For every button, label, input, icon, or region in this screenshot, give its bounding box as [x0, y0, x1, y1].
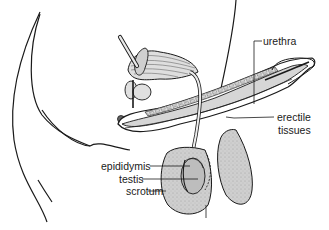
label-epididymis: epididymis [101, 160, 151, 172]
anatomy-diagram: urethra erectile tissues epididymis test… [0, 0, 329, 230]
testis [181, 158, 205, 194]
label-tissues: tissues [278, 124, 311, 136]
label-erectile: erectile [277, 111, 311, 123]
label-urethra: urethra [263, 35, 296, 47]
body-contour-back [13, 12, 90, 222]
prostate [125, 80, 151, 108]
body-contour-perineum [38, 110, 130, 202]
thigh-front [218, 129, 253, 204]
label-scrotum: scrotum [126, 185, 163, 197]
label-testis: testis [119, 173, 144, 185]
